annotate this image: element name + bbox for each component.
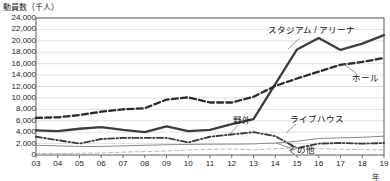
x-axis-tick-label: 04 [47, 160, 69, 168]
x-axis-tick-label: 18 [351, 160, 373, 168]
series-label-outdoor: 野外 [233, 116, 251, 125]
x-axis-title: 年 [372, 171, 379, 181]
x-axis-tick-label: 03 [25, 160, 47, 168]
x-axis-tick-label: 08 [134, 160, 156, 168]
x-axis-tick-label: 12 [221, 160, 243, 168]
x-axis-tick-label: 11 [199, 160, 221, 168]
x-axis-tick-label: 06 [90, 160, 112, 168]
series-label-hall: ホール [352, 74, 379, 83]
line-chart: 動員数（千人） 24,00022,00020,00018,00016,00014… [0, 0, 390, 181]
x-axis-tick-label: 13 [243, 160, 265, 168]
leader-line [230, 125, 238, 134]
x-axis-tick-label: 16 [308, 160, 330, 168]
leader-line [286, 124, 296, 133]
x-axis-tick-label: 09 [156, 160, 178, 168]
x-axis-tick-label: 17 [330, 160, 352, 168]
series-line [36, 58, 384, 118]
x-axis-tick-label: 15 [286, 160, 308, 168]
x-axis-tick-label: 10 [177, 160, 199, 168]
x-axis-tick-label: 14 [264, 160, 286, 168]
series-label-stadium: スタジアム / アリーナ [268, 26, 355, 35]
leader-line [288, 38, 300, 49]
x-axis-tick-label: 07 [112, 160, 134, 168]
series-line [36, 132, 384, 148]
gridlines [36, 18, 384, 144]
series-label-livehouse: ライブハウス [290, 115, 344, 124]
x-axis-tick-label: 05 [69, 160, 91, 168]
series-line [36, 148, 384, 154]
series-label-other: その他 [288, 146, 315, 155]
x-axis-tick-label: 19 [373, 160, 390, 168]
data-series-layer [36, 35, 384, 153]
